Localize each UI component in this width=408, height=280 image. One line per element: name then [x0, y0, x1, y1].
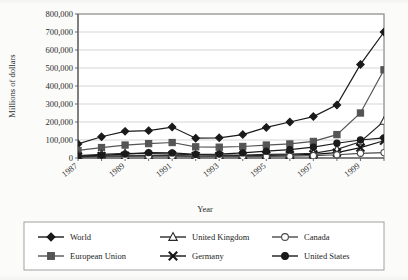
y-tick-label: 600,000: [45, 45, 73, 55]
data-point-filled-circle: [334, 140, 340, 146]
data-point-open-circle: [357, 150, 363, 156]
data-point-filled-square: [334, 132, 340, 138]
data-point-filled-square: [216, 144, 222, 150]
x-tick-label: 1989: [107, 161, 127, 179]
data-point-filled-circle: [146, 150, 152, 156]
legend-label: Canada: [304, 232, 330, 242]
legend-label: United States: [304, 251, 350, 261]
data-point-filled-square: [381, 67, 387, 73]
data-point-filled-square: [146, 141, 152, 147]
y-axis-title: Millions of dollars: [7, 54, 17, 117]
data-point-filled-circle: [193, 151, 199, 157]
x-tick-label: 1995: [248, 161, 268, 179]
data-point-filled-circle: [98, 152, 104, 158]
data-point-filled-circle: [122, 151, 128, 157]
y-tick-label: 800,000: [45, 9, 73, 19]
plot-area: [74, 14, 388, 161]
data-point-open-circle: [334, 152, 340, 158]
data-point-filled-circle: [287, 147, 293, 153]
x-tick-label: 1991: [154, 161, 174, 179]
y-axis-tick-labels: 0100,000200,000300,000400,000500,000600,…: [45, 9, 78, 163]
legend-label: United Kingdom: [192, 232, 250, 242]
data-point-open-circle: [287, 153, 293, 159]
legend-label: European Union: [70, 251, 127, 261]
data-point-open-circle: [282, 234, 289, 241]
data-point-filled-square: [263, 142, 269, 148]
data-point-filled-circle: [240, 150, 246, 156]
data-point-filled-square: [169, 139, 175, 145]
data-point-filled-square: [357, 110, 363, 116]
data-point-filled-circle: [381, 135, 387, 141]
legend-entry-united-states[interactable]: United States: [272, 251, 350, 261]
data-point-filled-square: [48, 253, 55, 260]
data-point-filled-circle: [282, 253, 289, 260]
data-point-filled-square: [193, 144, 199, 150]
x-tick-label: 1987: [60, 161, 80, 179]
x-tick-label: 1999: [342, 161, 362, 179]
y-tick-label: 400,000: [45, 81, 73, 91]
x-tick-label: 1997: [295, 161, 315, 179]
y-tick-label: 700,000: [45, 27, 73, 37]
data-point-filled-circle: [310, 144, 316, 150]
legend-entry-germany[interactable]: Germany: [160, 251, 224, 261]
x-axis-tick-labels: 1987198919911993199519971999: [60, 161, 362, 179]
data-point-filled-square: [240, 143, 246, 149]
x-tick-label: 1993: [201, 161, 221, 179]
data-point-open-circle: [381, 150, 387, 156]
y-tick-label: 100,000: [45, 135, 73, 145]
y-tick-label: 300,000: [45, 99, 73, 109]
line-chart: Millions of dollars 0100,000200,000300,0…: [0, 0, 408, 280]
data-point-open-circle: [310, 153, 316, 159]
chart-legend: WorldEuropean UnionUnited KingdomGermany…: [24, 222, 384, 270]
legend-entry-european-union[interactable]: European Union: [38, 251, 127, 261]
legend-label: World: [70, 232, 92, 242]
data-point-filled-circle: [216, 151, 222, 157]
data-point-filled-circle: [169, 150, 175, 156]
legend-label: Germany: [192, 251, 224, 261]
data-point-filled-circle: [357, 137, 363, 143]
data-point-filled-circle: [263, 148, 269, 154]
data-point-filled-square: [122, 142, 128, 148]
y-tick-label: 500,000: [45, 63, 73, 73]
chart-figure: Millions of dollars 0100,000200,000300,0…: [0, 0, 408, 280]
y-tick-label: 200,000: [45, 117, 73, 127]
x-axis-title: Year: [197, 204, 213, 214]
legend-entry-united-kingdom[interactable]: United Kingdom: [160, 232, 250, 242]
